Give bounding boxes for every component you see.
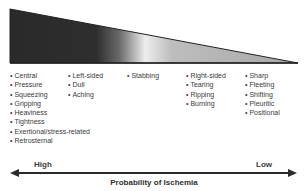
- descriptor-column-2: Left-sided Dull Aching: [68, 71, 103, 99]
- descriptor-item: Shifting: [245, 90, 280, 99]
- descriptor-item: Burning: [186, 99, 226, 108]
- descriptor-item: Heaviness: [10, 108, 90, 117]
- descriptor-column-4: Right-sided Tearing Ripping Burning: [186, 71, 226, 108]
- descriptor-item: Gripping: [10, 99, 90, 108]
- probability-gradient-wedge: [0, 0, 308, 70]
- descriptor-item: Tearing: [186, 80, 226, 89]
- descriptor-item: Exertional/stress-related: [10, 127, 90, 136]
- descriptor-item: Positional: [245, 108, 280, 117]
- descriptor-item: Pleuritic: [245, 99, 280, 108]
- descriptor-item: Left-sided: [68, 71, 103, 80]
- descriptor-item: Ripping: [186, 90, 226, 99]
- axis-title: Probability of Ischemia: [0, 178, 308, 187]
- descriptor-item: Tightness: [10, 117, 90, 126]
- descriptor-item: Right-sided: [186, 71, 226, 80]
- descriptor-item: Aching: [68, 90, 103, 99]
- descriptor-item: Sharp: [245, 71, 280, 80]
- descriptor-item: Fleeting: [245, 80, 280, 89]
- descriptor-column-low: Sharp Fleeting Shifting Pleuritic Positi…: [245, 71, 280, 117]
- descriptor-item: Retrosternal: [10, 136, 90, 145]
- descriptor-item: Dull: [68, 80, 103, 89]
- descriptor-column-3: Stabbing: [127, 71, 159, 80]
- descriptor-item: Stabbing: [127, 71, 159, 80]
